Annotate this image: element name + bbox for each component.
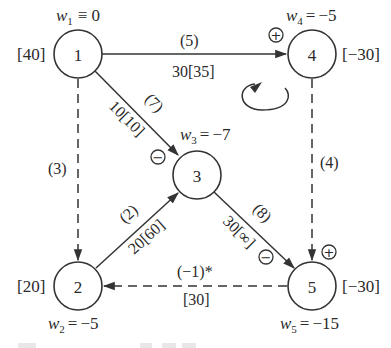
edge-1-3 — [95, 71, 178, 155]
svg-text:−: − — [153, 150, 164, 165]
node-4-supply: [−30] — [342, 45, 380, 64]
node-5-supply: [−30] — [342, 277, 380, 296]
edge-1-4-flow: 30[35] — [172, 63, 215, 80]
svg-text:4: 4 — [308, 46, 317, 65]
svg-text:+: + — [271, 28, 282, 43]
edge-1-4-cost: (5) — [180, 32, 199, 50]
node-3: 3 — [173, 151, 221, 199]
network-diagram: (5) 30[35] (7) 10[10] (3) (2) 20[60] (8)… — [0, 0, 391, 348]
node-4-weight: w4=−5 — [286, 6, 337, 27]
node-2-supply: [20] — [17, 277, 45, 296]
svg-text:−: − — [261, 250, 272, 265]
node-1: 1 — [54, 30, 102, 78]
edge-2-3-cost: (2) — [116, 201, 142, 227]
node-5-weight: w5=−15 — [280, 314, 339, 335]
edge-5-2-cost: (−1)* — [177, 263, 213, 281]
node-5: 5 — [288, 262, 336, 310]
node-1-supply: [40] — [17, 45, 45, 64]
node-4: 4 — [288, 30, 336, 78]
edge-2-3 — [96, 193, 178, 268]
plus-sign-icon: + — [269, 28, 283, 43]
edge-3-5-cost: (8) — [249, 200, 275, 226]
svg-text:3: 3 — [193, 167, 202, 186]
svg-text:1: 1 — [74, 46, 83, 65]
node-2-weight: w2=−5 — [48, 314, 99, 335]
cropped-caption-fragment — [18, 343, 196, 348]
edge-1-2-cost: (3) — [48, 160, 67, 178]
node-2: 2 — [54, 262, 102, 310]
node-3-weight: w3=−7 — [180, 125, 231, 146]
node-1-weight: w1≡0 — [56, 6, 100, 27]
edge-3-5-flow: 30[∞] — [220, 212, 259, 251]
clockwise-arrow-icon — [242, 82, 288, 110]
svg-text:2: 2 — [74, 278, 83, 297]
edge-5-2-flow: [30] — [183, 291, 210, 308]
plus-sign-icon: + — [322, 245, 336, 260]
svg-text:+: + — [324, 245, 335, 260]
edge-1-3-cost: (7) — [141, 90, 167, 116]
minus-sign-icon: − — [151, 150, 165, 165]
minus-sign-icon: − — [259, 250, 273, 265]
edge-4-5-cost: (4) — [320, 154, 339, 172]
svg-text:5: 5 — [308, 278, 317, 297]
